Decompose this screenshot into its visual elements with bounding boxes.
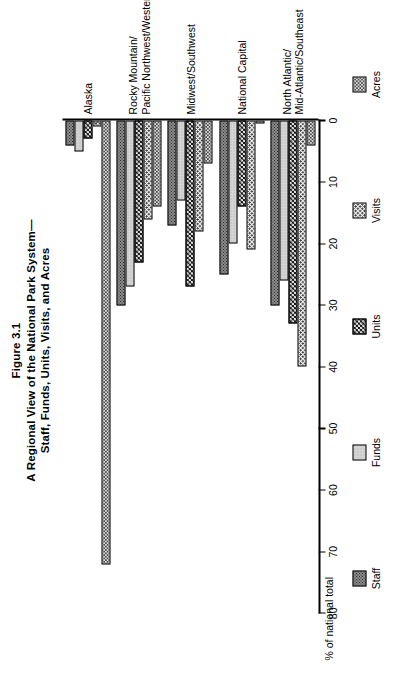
axis-tick [318,304,325,305]
bar-staff-4 [65,120,74,145]
category-label: Midwest/Southwest [184,4,197,114]
bar-staff-1 [219,120,228,274]
bar-funds-4 [74,120,83,151]
legend-label: Funds [369,422,381,482]
chart-plot-area: % of national total 01020304050607080 Al… [0,0,393,700]
bar-visits-0 [297,120,306,366]
axis-tick-label: 70 [326,536,338,566]
bar-staff-2 [167,120,176,225]
axis-tick-label: 30 [326,290,338,320]
bar-funds-3 [125,120,134,286]
bar-acres-1 [255,120,264,123]
bar-funds-1 [228,120,237,243]
axis-tick-label: 50 [326,413,338,443]
legend-item-units[interactable]: Units [352,296,381,356]
legend-swatch-funds [352,444,366,460]
legend-swatch-visits [352,202,366,218]
bar-funds-2 [176,120,185,200]
axis-tick [318,366,325,367]
axis-tick [318,612,325,613]
axis-tick-label: 20 [326,228,338,258]
bar-visits-3 [143,120,152,219]
legend-item-visits[interactable]: Visits [352,180,381,240]
bar-acres-3 [152,120,161,206]
legend-item-funds[interactable]: Funds [352,422,381,482]
bar-units-1 [237,120,246,206]
axis-tick [318,489,325,490]
figure-stage: Figure 3.1 A Regional View of the Nation… [0,0,393,700]
bar-visits-1 [246,120,255,249]
bar-units-3 [134,120,143,262]
axis-tick-label: 40 [326,351,338,381]
bar-staff-0 [270,120,279,305]
legend-item-staff[interactable]: Staff [352,548,381,608]
bar-staff-3 [116,120,125,305]
axis-tick-label: 60 [326,475,338,505]
legend-label: Visits [369,180,381,240]
bar-units-0 [288,120,297,323]
category-label: Rocky Mountain/ Pacific Northwest/Wester… [126,4,151,114]
axis-tick [318,181,325,182]
bar-acres-2 [203,120,212,163]
axis-tick [318,243,325,244]
axis-tick [318,427,325,428]
legend-label: Units [369,296,381,356]
chart-legend: StaffFundsUnitsVisitsAcres [352,0,386,700]
legend-label: Staff [369,548,381,608]
legend-swatch-acres [352,76,366,92]
bar-acres-4 [101,120,110,564]
bar-units-4 [83,120,92,138]
legend-swatch-staff [352,570,366,586]
bar-acres-0 [306,120,315,145]
bar-funds-0 [279,120,288,280]
axis-tick [318,119,325,120]
legend-label: Acres [369,54,381,114]
bar-visits-4 [92,120,101,126]
legend-item-acres[interactable]: Acres [352,54,381,114]
axis-tick-label: 80 [326,598,338,628]
category-label: Alaska [81,4,94,114]
category-label: National Capital [235,4,248,114]
axis-tick-label: 10 [326,167,338,197]
category-label: North Atlantic/ Mid-Atlantic/Southeast [280,4,305,114]
bar-units-2 [185,120,194,286]
legend-swatch-units [352,318,366,334]
axis-tick [318,551,325,552]
axis-tick-label: 0 [326,105,338,135]
bar-visits-2 [194,120,203,231]
